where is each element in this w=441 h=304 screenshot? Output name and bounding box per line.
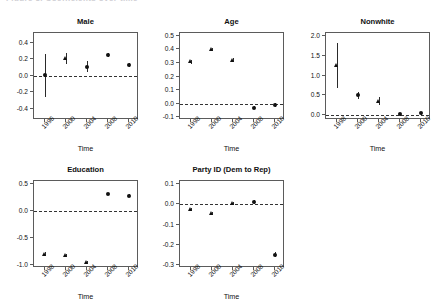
y-tick-label: 0.0 xyxy=(148,200,174,207)
y-tick-mark xyxy=(176,224,179,225)
y-tick-label: 0.1 xyxy=(148,180,174,187)
y-tick-mark xyxy=(176,183,179,184)
y-tick-label: -0.2 xyxy=(148,240,174,247)
panel-title: Party ID (Dem to Rep) xyxy=(179,165,284,174)
data-point-marker xyxy=(209,211,213,215)
data-point-marker xyxy=(230,201,234,205)
data-point-marker xyxy=(273,253,277,257)
panel-party-id-dem-to-rep: Party ID (Dem to Rep)0.10.0-0.1-0.2-0.31… xyxy=(0,0,441,304)
y-tick-label: -0.3 xyxy=(148,260,174,267)
y-tick-mark xyxy=(176,264,179,265)
y-tick-mark xyxy=(176,244,179,245)
y-tick-label: -0.1 xyxy=(148,220,174,227)
coefficient-plot-figure: Figure 3. Coefficients over time Male0.4… xyxy=(0,0,441,304)
y-tick-mark xyxy=(176,203,179,204)
x-axis-title: Time xyxy=(179,292,284,301)
plot-area xyxy=(179,180,284,267)
data-point-marker xyxy=(252,200,256,204)
data-point-marker xyxy=(188,207,192,211)
